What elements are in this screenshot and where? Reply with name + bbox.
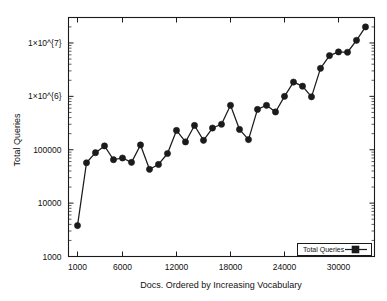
y-tick-label: 10000 <box>38 198 62 208</box>
y-tick-label: 100000 <box>33 145 62 155</box>
data-point <box>272 109 278 115</box>
data-point <box>137 142 143 148</box>
data-point <box>209 125 215 131</box>
data-point <box>74 222 80 228</box>
x-axis-title: Docs. Ordered by Increasing Vocabulary <box>140 280 302 290</box>
y-tick-label: 1×10^{6} <box>28 91 62 101</box>
data-point <box>362 24 368 30</box>
data-point <box>227 102 233 108</box>
x-tick-label: 6000 <box>113 262 132 272</box>
data-point <box>119 155 125 161</box>
legend-label-total-queries: Total Queries <box>303 246 345 254</box>
data-point <box>173 127 179 133</box>
chart-legend[interactable]: Total Queries <box>298 244 372 256</box>
x-tick-label: 18000 <box>219 262 243 272</box>
data-point <box>353 37 359 43</box>
y-tick-label: 1000 <box>43 252 62 262</box>
data-point <box>326 53 332 59</box>
data-point <box>200 137 206 143</box>
data-point <box>308 94 314 100</box>
data-point <box>182 139 188 145</box>
data-point <box>110 157 116 163</box>
data-point <box>290 79 296 85</box>
data-point <box>317 65 323 71</box>
data-point <box>299 83 305 89</box>
x-tick-label: 12000 <box>165 262 189 272</box>
x-tick-label: 24000 <box>273 262 297 272</box>
data-point <box>245 136 251 142</box>
data-point <box>83 160 89 166</box>
data-point <box>344 49 350 55</box>
data-point <box>92 150 98 156</box>
data-point <box>218 121 224 127</box>
data-point <box>335 49 341 55</box>
chart-canvas: 1000100001000001×10^{6}1×10^{7} 10006000… <box>0 0 387 301</box>
data-point <box>191 122 197 128</box>
y-axis-title: Total Queries <box>12 113 22 167</box>
data-point <box>155 161 161 167</box>
data-point <box>236 126 242 132</box>
data-point <box>101 143 107 149</box>
chart-figure: 1000100001000001×10^{6}1×10^{7} 10006000… <box>0 0 387 301</box>
y-tick-label: 1×10^{7} <box>28 38 62 48</box>
data-point <box>128 159 134 165</box>
legend-marker-sample <box>352 246 359 253</box>
data-point <box>281 93 287 99</box>
data-point <box>164 150 170 156</box>
data-point <box>263 102 269 108</box>
x-tick-label: 30000 <box>327 262 351 272</box>
data-point <box>146 166 152 172</box>
data-point <box>254 106 260 112</box>
x-tick-label: 1000 <box>68 262 87 272</box>
